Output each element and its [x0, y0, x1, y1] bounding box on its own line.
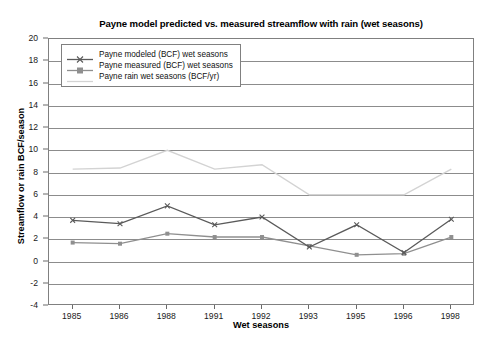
chart-figure: Payne model predicted vs. measured strea…	[0, 0, 493, 341]
y-tick-label: -4	[30, 300, 38, 310]
x-tick-mark	[356, 305, 357, 309]
data-point-marker	[165, 232, 169, 236]
x-tick-mark	[119, 305, 120, 309]
series-line	[73, 206, 452, 253]
y-tick-label: 16	[28, 78, 38, 88]
legend-swatch-line	[67, 72, 93, 81]
data-point-marker	[260, 235, 264, 239]
data-point-marker	[449, 235, 453, 239]
x-tick-mark	[261, 305, 262, 309]
legend-label: Payne measured (BCF) wet seasons	[99, 61, 233, 70]
y-axis-ticks: 20181614121086420-2-4	[0, 38, 48, 305]
data-point-marker	[354, 222, 359, 227]
legend-item[interactable]: Payne measured (BCF) wet seasons	[67, 60, 233, 71]
legend-item[interactable]: Payne modeled (BCF) wet seasons	[67, 49, 233, 60]
y-tick-label: -2	[30, 278, 38, 288]
x-axis-title: Wet seasons	[48, 320, 474, 330]
legend-swatch-x	[67, 50, 93, 59]
x-tick-mark	[72, 305, 73, 309]
y-tick-label: 14	[28, 100, 38, 110]
y-tick-label: 2	[33, 233, 38, 243]
chart-title: Payne model predicted vs. measured strea…	[48, 18, 474, 30]
x-tick-mark	[450, 305, 451, 309]
legend-label: Payne rain wet seasons (BCF/yr)	[99, 72, 219, 81]
y-tick-label: 0	[33, 256, 38, 266]
y-tick-label: 4	[33, 211, 38, 221]
x-tick-mark	[214, 305, 215, 309]
y-tick-label: 12	[28, 122, 38, 132]
data-point-marker	[213, 235, 217, 239]
data-point-marker	[449, 217, 454, 222]
y-tick-label: 8	[33, 167, 38, 177]
data-point-marker	[71, 241, 75, 245]
x-tick-mark	[308, 305, 309, 309]
legend-item[interactable]: Payne rain wet seasons (BCF/yr)	[67, 71, 233, 82]
plot-area: Payne modeled (BCF) wet seasonsPayne mea…	[48, 38, 474, 305]
legend-label: Payne modeled (BCF) wet seasons	[99, 50, 228, 59]
series-line	[73, 150, 452, 195]
data-point-marker	[118, 242, 122, 246]
chart-legend: Payne modeled (BCF) wet seasonsPayne mea…	[61, 44, 241, 87]
y-tick-label: 18	[28, 55, 38, 65]
data-point-marker	[355, 253, 359, 257]
y-tick-label: 6	[33, 189, 38, 199]
x-tick-mark	[166, 305, 167, 309]
y-tick-label: 20	[28, 33, 38, 43]
legend-swatch-square	[67, 61, 93, 70]
y-tick-label: 10	[28, 144, 38, 154]
x-tick-mark	[403, 305, 404, 309]
